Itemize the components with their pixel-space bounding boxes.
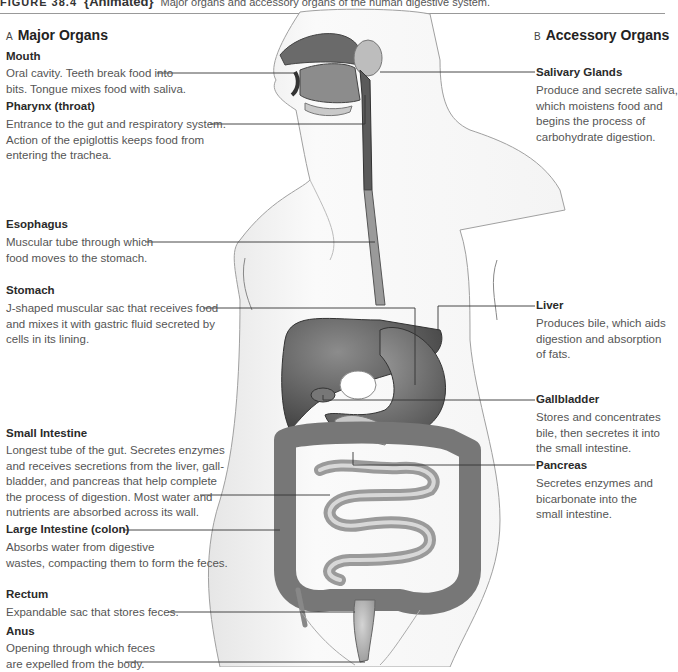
label-pancreas: Pancreas <box>536 459 587 471</box>
desc-gallbladder: Stores and concentratesbile, then secret… <box>536 410 661 457</box>
desc-large-intestine: Absorbs water from digestivewastes, comp… <box>6 540 228 571</box>
desc-rectum: Expandable sac that stores feces. <box>6 605 179 621</box>
desc-esophagus: Muscular tube through whichfood moves to… <box>6 235 153 266</box>
desc-liver: Produces bile, which aidsdigestion and a… <box>536 316 666 363</box>
label-large-intestine: Large Intestine (colon) <box>6 523 129 535</box>
desc-pharynx: Entrance to the gut and respiratory syst… <box>6 117 226 164</box>
label-pharynx: Pharynx (throat) <box>6 100 95 112</box>
section-title-accessory: BAccessory Organs <box>534 27 669 43</box>
desc-pancreas: Secretes enzymes andbicarbonate into the… <box>536 476 653 523</box>
label-anus: Anus <box>6 625 35 637</box>
desc-mouth: Oral cavity. Teeth break food intobits. … <box>6 66 186 97</box>
desc-stomach: J-shaped muscular sac that receives food… <box>6 301 218 348</box>
label-salivary-glands: Salivary Glands <box>536 66 622 78</box>
section-title-major: AMajor Organs <box>6 27 108 43</box>
label-rectum: Rectum <box>6 588 48 600</box>
label-esophagus: Esophagus <box>6 218 68 230</box>
label-gallbladder: Gallbladder <box>536 393 599 405</box>
desc-salivary-glands: Produce and secrete saliva,which moisten… <box>536 83 678 145</box>
desc-anus: Opening through which fecesare expelled … <box>6 641 155 672</box>
label-small-intestine: Small Intestine <box>6 427 87 439</box>
label-liver: Liver <box>536 299 564 311</box>
desc-small-intestine: Longest tube of the gut. Secretes enzyme… <box>6 443 225 521</box>
label-mouth: Mouth <box>6 50 40 62</box>
label-stomach: Stomach <box>6 284 55 296</box>
